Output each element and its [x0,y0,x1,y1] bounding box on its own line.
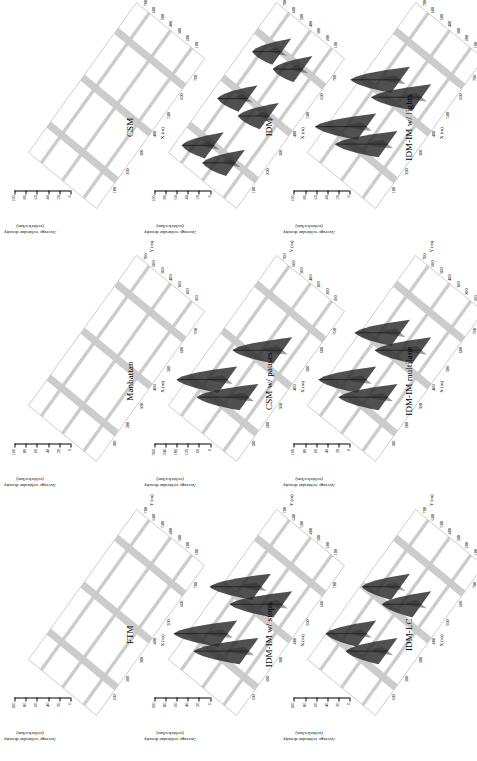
z-tick-label: 20 [336,448,340,452]
z-tick-label: 100 [151,702,155,709]
z-axis-title: Average vehicular density(vehicles/km) [270,223,348,234]
z-tick-mark [70,190,71,194]
x-tick-label: 100 [251,694,255,700]
panel-title-idm: IDM [263,0,273,254]
z-tick-mark [338,697,339,701]
y-tick-label: 400 [447,20,451,26]
z-tick-mark [154,190,155,194]
x-tick-label: 600 [458,600,462,606]
z-axis-line [14,697,70,698]
z-tick-label: 40 [45,702,49,706]
plot-panel-idm-im-multilane[interactable]: 100200300400500600700X (m)10020030040050… [279,254,419,508]
z-tick-label: 20 [336,195,340,199]
z-tick-mark [349,443,350,447]
x-tick-label: 100 [391,694,395,700]
z-tick-mark [14,190,15,194]
z-tick-label: 80 [302,195,306,199]
x-tick-label: 100 [112,694,116,700]
z-tick-label: 80 [163,195,167,199]
z-tick-mark [210,697,211,701]
y-tick-label: 500 [439,13,443,19]
y-tick-label: 200 [464,542,468,548]
z-tick-mark [176,697,177,701]
z-tick-mark [198,697,199,701]
y-tick-label: 200 [464,288,468,294]
z-tick-label: 100 [291,195,295,202]
z-tick-label: 40 [325,195,329,199]
x-tick-label: 300 [418,149,422,155]
panel-title-idm-lc: IDM-LC [403,507,413,761]
z-tick-label: 60 [174,195,178,199]
plot-panel-csm[interactable]: 100200300400500600700X (m)10020030040050… [0,0,140,254]
z-tick-mark [338,443,339,447]
z-axis-title-line2: (vehicles/km) [270,730,348,736]
z-axis-title-line1: Average vehicular density [0,229,69,235]
z-tick-label: 20 [57,448,61,452]
z-tick-label: 60 [34,195,38,199]
z-axis-title-line2: (vehicles/km) [0,730,69,736]
z-tick-label: 100 [12,702,16,709]
z-tick-label: 20 [336,702,340,706]
panel-title-csm: CSM [124,0,134,254]
x-tick-label: 100 [251,440,255,446]
z-tick-mark [36,443,37,447]
panel-title-idm-im-lights: IDM-IM w/ lights [403,0,413,254]
z-axis-title: Average vehicular density(vehicles/km) [270,730,348,741]
z-axis-line [154,443,210,444]
plot-panel-idm-lc[interactable]: 100200300400500600700X (m)10020030040050… [279,507,419,761]
x-tick-label: 100 [391,440,395,446]
z-axis-title-line1: Average vehicular density [130,736,208,742]
z-tick-mark [210,443,211,447]
z-axis-title-line2: (vehicles/km) [0,477,69,483]
z-axis-line [14,190,70,191]
z-axis-manhattan: 020406080100Average vehicular density(ve… [14,443,70,485]
plot-panel-idm-im-lights[interactable]: 100200300400500600700X (m)10020030040050… [279,0,419,254]
z-tick-mark [187,443,188,447]
z-axis-title: Average vehicular density(vehicles/km) [0,730,69,741]
plot-panel-manhattan[interactable]: 100200300400500600700X (m)10020030040050… [0,254,140,508]
z-tick-mark [59,190,60,194]
y-axis-label: Y (m) [428,240,433,252]
x-axis-label: X (m) [438,127,443,139]
z-tick-mark [59,443,60,447]
z-tick-label: 60 [314,702,318,706]
z-tick-label: 80 [23,448,27,452]
plot-panel-idm[interactable]: 100200300400500600700X (m)10020030040050… [140,0,280,254]
plot-panel-idm-im-stops[interactable]: 100200300400500600700X (m)10020030040050… [140,507,280,761]
z-tick-mark [327,190,328,194]
z-tick-mark [210,190,211,194]
z-tick-mark [154,697,155,701]
panel-title-idm-im-stops: IDM-IM w/ stops [263,507,273,761]
z-axis-csm: 020406080100Average vehicular density(ve… [14,190,70,232]
x-tick-label: 400 [431,638,435,644]
x-tick-label: 400 [431,384,435,390]
y-tick-label: 200 [464,34,468,40]
z-axis-idm-lc: 020406080100Average vehicular density(ve… [293,697,349,739]
z-tick-label: 0 [207,448,211,450]
z-axis-line [154,190,210,191]
z-tick-mark [36,190,37,194]
z-tick-mark [165,443,166,447]
z-tick-label: 100 [291,702,295,709]
x-tick-label: 400 [431,130,435,136]
x-tick-label: 700 [472,581,476,587]
x-tick-label: 300 [418,403,422,409]
z-tick-label: 60 [314,195,318,199]
z-tick-mark [14,697,15,701]
z-tick-mark [154,443,155,447]
z-tick-label: 0 [207,702,211,704]
z-axis-title-line1: Average vehicular density [130,482,208,488]
z-axis-title: Average vehicular density(vehicles/km) [0,477,69,488]
y-tick-label: 600 [430,514,434,520]
z-tick-mark [293,697,294,701]
z-axis-title-line2: (vehicles/km) [270,223,348,229]
z-tick-mark [176,443,177,447]
plot-panel-ftm[interactable]: 100200300400500600700X (m)10020030040050… [0,507,140,761]
plot-panel-csm-pauses[interactable]: 100200300400500600700X (m)10020030040050… [140,254,280,508]
z-axis-idm-im-stops: 020406080100Average vehicular density(ve… [154,697,210,739]
y-tick-label: 500 [439,521,443,527]
z-tick-mark [316,697,317,701]
z-tick-label: 180 [174,448,178,455]
z-tick-mark [305,443,306,447]
